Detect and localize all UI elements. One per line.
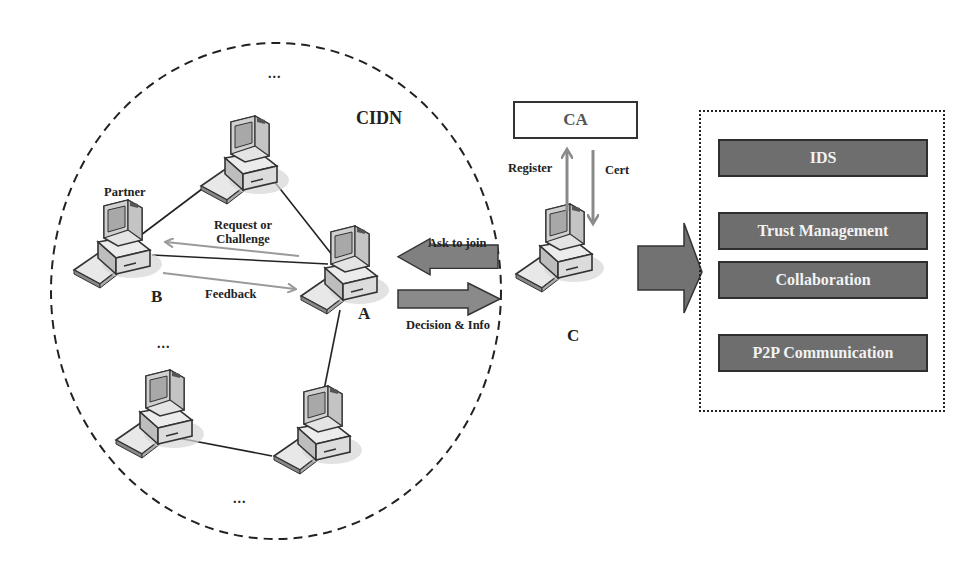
feedback-label: Feedback (205, 288, 256, 302)
expand-arrow (638, 223, 702, 313)
decision-info-arrow (398, 283, 500, 315)
ask-to-join-label: Ask to join (428, 237, 486, 251)
module-collaboration: Collaboration (718, 261, 928, 299)
module-p2p-communication: P2P Communication (718, 334, 928, 372)
register-label: Register (508, 162, 552, 176)
node-b-label: B (151, 287, 162, 307)
pc-bottom-right-icon (274, 386, 362, 474)
request-label-line1: Request or (208, 219, 278, 233)
ca-box: CA (513, 101, 638, 139)
pc-b-icon (74, 200, 162, 288)
request-label-line2: Challenge (208, 233, 278, 247)
ellipsis-bottom: ... (233, 491, 247, 507)
module-trust-management: Trust Management (718, 212, 928, 250)
node-c-label: C (567, 326, 579, 346)
partner-label: Partner (104, 186, 146, 200)
cert-label: Cert (605, 164, 629, 178)
request-challenge-label: Request or Challenge (208, 219, 278, 247)
decision-info-label: Decision & Info (406, 319, 490, 333)
ellipsis-left: ... (157, 336, 171, 352)
pc-top-icon (201, 116, 289, 204)
cidn-label: CIDN (356, 108, 402, 129)
pc-c-icon (516, 204, 604, 292)
module-ids: IDS (718, 139, 928, 177)
pc-bottom-left-icon (116, 370, 204, 458)
node-a-label: A (358, 304, 370, 324)
ellipsis-top: ... (268, 66, 282, 82)
pc-a-icon (301, 226, 389, 314)
